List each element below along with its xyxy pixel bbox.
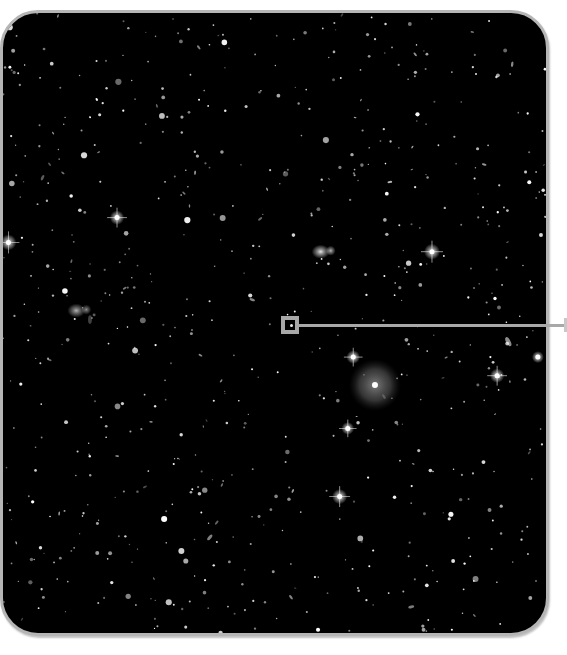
galaxy (511, 61, 514, 67)
star (443, 255, 445, 257)
star (79, 75, 80, 76)
star (59, 87, 61, 89)
star (213, 213, 215, 215)
star (222, 480, 223, 481)
star (147, 61, 149, 63)
star (506, 321, 508, 323)
galaxy (15, 541, 17, 545)
star (89, 263, 91, 265)
star (408, 555, 410, 557)
star (385, 233, 388, 236)
star (285, 436, 287, 438)
star (531, 478, 533, 480)
star (496, 581, 497, 582)
star (145, 123, 146, 124)
star (287, 497, 290, 500)
star (425, 583, 429, 587)
marked-star (290, 324, 293, 327)
star (3, 93, 4, 95)
star (318, 576, 319, 577)
star (292, 233, 296, 237)
galaxy (205, 419, 208, 422)
star (448, 512, 453, 517)
star (104, 269, 106, 271)
star (311, 311, 312, 312)
star (227, 606, 229, 608)
star (426, 263, 427, 264)
star (470, 268, 472, 270)
star (58, 149, 59, 150)
star (11, 563, 13, 565)
star (122, 110, 124, 112)
star (532, 330, 534, 332)
star (438, 144, 440, 146)
star (350, 153, 353, 156)
galaxy (413, 52, 417, 57)
star (165, 542, 167, 544)
star (305, 89, 307, 91)
star (416, 44, 418, 46)
star (52, 269, 54, 271)
star (99, 181, 101, 183)
star (96, 60, 98, 62)
star (293, 39, 295, 41)
star (16, 35, 18, 37)
star (13, 71, 16, 74)
star (317, 207, 321, 211)
star (183, 558, 188, 563)
star (492, 361, 495, 364)
star (332, 78, 335, 81)
star (95, 551, 99, 555)
galaxy (327, 178, 330, 181)
star (154, 628, 155, 629)
star (42, 596, 45, 599)
star (311, 214, 313, 216)
star (94, 144, 96, 146)
star (98, 113, 101, 116)
galaxy (288, 595, 293, 600)
galaxy (219, 379, 223, 383)
star (463, 562, 465, 564)
star (394, 294, 396, 296)
star (426, 350, 428, 352)
star (372, 429, 374, 431)
star (144, 301, 146, 303)
star (185, 169, 187, 171)
star (468, 537, 470, 539)
star (385, 192, 389, 196)
star (137, 548, 138, 549)
star (544, 216, 546, 218)
star (117, 328, 118, 329)
star (39, 546, 42, 549)
star (539, 233, 543, 237)
star (478, 283, 480, 285)
star (107, 558, 109, 560)
star (209, 300, 211, 302)
star (95, 98, 97, 100)
galaxy (97, 151, 100, 154)
star (27, 339, 29, 341)
star (288, 486, 290, 488)
galaxy (387, 181, 392, 184)
star (129, 544, 130, 545)
star (213, 564, 215, 566)
star (410, 502, 412, 504)
star (354, 174, 356, 176)
star (527, 112, 529, 114)
star (140, 142, 142, 144)
star (172, 18, 173, 19)
star (407, 79, 409, 81)
star (97, 602, 99, 604)
star (131, 277, 132, 278)
star (486, 301, 488, 303)
star (126, 594, 131, 599)
star (398, 266, 400, 268)
star (358, 589, 360, 591)
star (244, 609, 246, 611)
star (364, 273, 367, 276)
star (134, 98, 135, 99)
star (389, 140, 391, 142)
star (269, 169, 271, 171)
star (35, 358, 36, 359)
star (260, 90, 261, 91)
